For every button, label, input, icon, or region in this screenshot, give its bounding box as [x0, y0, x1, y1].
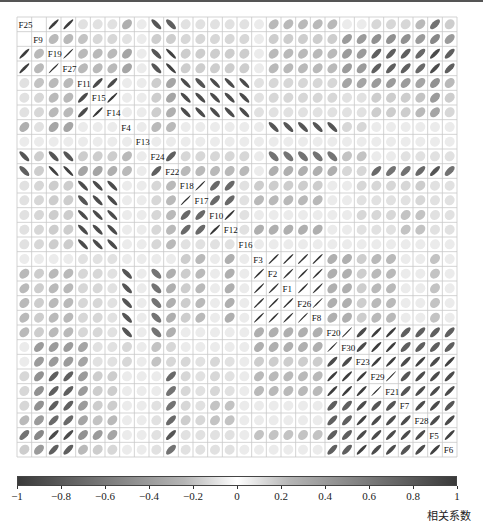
correlation-ellipse	[120, 443, 134, 457]
correlation-ellipse	[179, 340, 193, 354]
correlation-ellipse	[32, 76, 46, 90]
correlation-ellipse	[223, 252, 237, 266]
correlation-ellipse	[208, 267, 222, 281]
correlation-ellipse	[193, 384, 207, 398]
correlation-ellipse	[443, 47, 456, 60]
correlation-ellipse	[164, 267, 178, 281]
correlation-ellipse	[91, 340, 105, 354]
correlation-ellipse	[179, 135, 193, 149]
correlation-ellipse	[443, 326, 456, 339]
correlation-ellipse	[281, 193, 295, 207]
correlation-ellipse	[135, 413, 149, 427]
correlation-ellipse	[208, 369, 222, 383]
correlation-ellipse	[267, 105, 281, 119]
correlation-ellipse	[429, 385, 441, 397]
correlation-ellipse	[296, 325, 310, 339]
correlation-ellipse	[355, 91, 369, 105]
correlation-ellipse	[105, 399, 119, 413]
correlation-ellipse	[237, 355, 251, 369]
correlation-ellipse	[429, 400, 441, 412]
correlation-ellipse	[164, 325, 178, 339]
correlation-ellipse	[238, 106, 250, 118]
colorbar-tick	[105, 486, 106, 489]
correlation-ellipse	[179, 325, 193, 339]
correlation-ellipse	[281, 17, 295, 31]
correlation-ellipse	[356, 341, 368, 353]
correlation-ellipse	[61, 91, 75, 105]
correlation-ellipse	[105, 252, 119, 266]
diagonal-label: F8	[312, 313, 322, 323]
correlation-ellipse	[149, 369, 163, 383]
correlation-ellipse	[252, 149, 266, 163]
correlation-ellipse	[296, 223, 310, 237]
correlation-ellipse	[237, 208, 251, 222]
correlation-ellipse	[193, 311, 207, 325]
correlation-ellipse	[311, 135, 325, 149]
correlation-ellipse	[296, 179, 310, 193]
correlation-ellipse	[311, 325, 325, 339]
correlation-ellipse	[179, 399, 193, 413]
correlation-ellipse	[32, 340, 46, 354]
correlation-ellipse	[356, 385, 368, 397]
correlation-ellipse	[399, 341, 412, 354]
correlation-ellipse	[92, 224, 104, 236]
correlation-ellipse	[253, 312, 264, 323]
correlation-ellipse	[149, 193, 163, 207]
correlation-ellipse	[268, 283, 279, 294]
correlation-ellipse	[32, 428, 46, 442]
correlation-ellipse	[164, 91, 178, 105]
diagonal-label: F2	[268, 269, 278, 279]
correlation-ellipse	[179, 355, 193, 369]
correlation-ellipse	[47, 120, 61, 134]
correlation-ellipse	[194, 208, 207, 221]
correlation-ellipse	[325, 223, 339, 237]
correlation-ellipse	[17, 296, 31, 310]
correlation-ellipse	[267, 208, 281, 222]
correlation-ellipse	[149, 428, 163, 442]
correlation-ellipse	[413, 267, 427, 281]
correlation-ellipse	[92, 194, 104, 206]
correlation-ellipse	[32, 179, 46, 193]
correlation-ellipse	[355, 47, 369, 61]
correlation-ellipse	[62, 370, 75, 383]
correlation-ellipse	[237, 399, 251, 413]
correlation-ellipse	[413, 193, 427, 207]
correlation-ellipse	[91, 311, 105, 325]
correlation-ellipse	[311, 208, 325, 222]
diagonal-label: F29	[371, 372, 386, 382]
correlation-ellipse	[18, 48, 30, 60]
correlation-ellipse	[237, 61, 251, 75]
correlation-ellipse	[428, 267, 442, 281]
correlation-ellipse	[91, 399, 105, 413]
correlation-ellipse	[355, 296, 369, 310]
correlation-ellipse	[413, 76, 427, 90]
correlation-ellipse	[120, 17, 134, 31]
correlation-ellipse	[17, 355, 31, 369]
correlation-ellipse	[32, 311, 46, 325]
correlation-ellipse	[91, 252, 105, 266]
colorbar-tick	[325, 486, 326, 489]
correlation-ellipse	[76, 399, 90, 413]
correlation-ellipse	[252, 369, 266, 383]
correlation-ellipse	[311, 369, 325, 383]
correlation-ellipse	[193, 281, 207, 295]
correlation-ellipse	[296, 355, 310, 369]
correlation-ellipse	[355, 17, 369, 31]
correlation-ellipse	[223, 443, 237, 457]
correlation-ellipse	[296, 399, 310, 413]
correlation-ellipse	[355, 135, 369, 149]
correlation-ellipse	[47, 150, 60, 163]
correlation-ellipse	[370, 341, 382, 353]
correlation-ellipse	[325, 135, 339, 149]
correlation-ellipse	[135, 179, 149, 193]
correlation-ellipse	[311, 384, 325, 398]
correlation-ellipse	[180, 106, 192, 118]
correlation-ellipse	[443, 17, 457, 31]
correlation-ellipse	[91, 384, 105, 398]
correlation-ellipse	[61, 223, 75, 237]
correlation-ellipse	[400, 414, 412, 426]
correlation-ellipse	[371, 386, 382, 397]
correlation-ellipse	[296, 76, 310, 90]
correlation-ellipse	[105, 311, 119, 325]
correlation-ellipse	[149, 355, 163, 369]
